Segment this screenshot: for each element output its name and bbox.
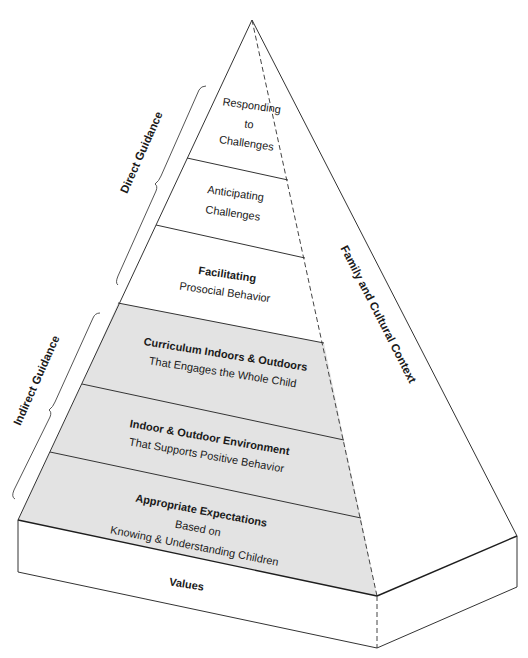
indirect-guidance-label: Indirect Guidance: [11, 334, 61, 428]
guidance-pyramid-diagram: Direct Guidance Indirect Guidance Family…: [0, 0, 528, 658]
layer-responding-line-2: to: [244, 117, 255, 130]
direct-guidance-label: Direct Guidance: [118, 110, 165, 195]
